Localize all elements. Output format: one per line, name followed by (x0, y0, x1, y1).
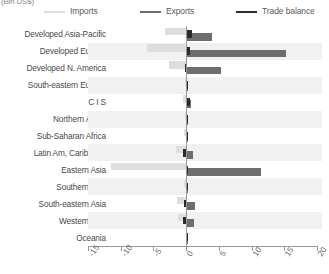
legend-swatch-trade-balance (236, 11, 257, 13)
bar-imports (169, 61, 186, 68)
bar-exports (186, 168, 261, 176)
bar-exports (186, 67, 221, 75)
zero-reference-line (186, 26, 187, 248)
axis-tick-label: 0 (185, 249, 195, 258)
units-label: (Bln US$) (1, 0, 34, 6)
plot-area: Developed Asia-PacificDeveloped EuropeDe… (0, 26, 322, 246)
value-axis: -15-10-505101520 (88, 246, 322, 274)
row-band (88, 178, 322, 195)
bar-exports (186, 151, 193, 159)
bar-exports (186, 219, 194, 227)
bar-imports (165, 28, 186, 35)
row-band (88, 111, 322, 128)
row-band (88, 77, 322, 94)
legend-label-trade-balance: Trade balance (262, 6, 315, 16)
axis-tick-label: -5 (152, 247, 164, 258)
chart-legend: Imports Exports Trade balance (44, 1, 322, 14)
axis-line (88, 246, 317, 247)
legend-label-imports: Imports (70, 6, 98, 16)
bars-layer (88, 26, 322, 246)
legend-item-exports[interactable]: Exports (140, 1, 194, 14)
bar-imports (147, 44, 186, 51)
legend-label-exports: Exports (166, 6, 194, 16)
legend-swatch-imports (44, 11, 65, 13)
legend-item-imports[interactable]: Imports (44, 1, 98, 14)
legend-swatch-exports (140, 11, 161, 13)
row-band (88, 144, 322, 161)
legend-item-trade-balance[interactable]: Trade balance (236, 1, 315, 14)
bar-imports (111, 163, 186, 170)
bar-exports (186, 202, 195, 210)
axis-tick-label: 5 (218, 249, 228, 258)
bar-exports (186, 50, 285, 58)
row-band (88, 212, 322, 229)
